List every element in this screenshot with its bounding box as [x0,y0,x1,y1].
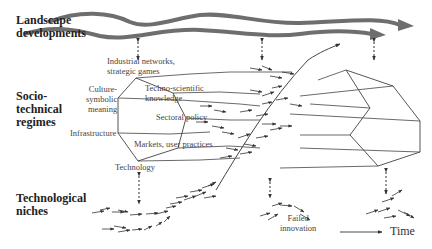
label-markets-user-practices: Markets, user practices [134,139,213,149]
label-industrial-networks: Industrial networks, strategic games [107,56,175,76]
regimes-line-3: regimes [16,116,62,129]
label-infrastructure: Infrastructure [70,128,116,138]
breakthrough-arrow [216,44,340,190]
label-technology: Technology [115,162,155,172]
level-label-landscape: Landscape developments [16,14,86,40]
industrial-line-2: strategic games [107,66,175,76]
techno-line-1: Techno-scientific [145,83,204,93]
label-failed-innovation: Failed innovation [280,213,316,233]
culture-line-2: symbolic [86,94,117,104]
label-time: Time [390,224,415,239]
niches-line-2: niches [16,205,86,218]
niche-arrows [92,182,414,232]
culture-line-3: meaning [86,104,117,114]
landscape-line-2: developments [16,27,86,40]
label-sectoral-policy: Sectoral policy [156,112,207,122]
techno-line-2: knowledge [145,93,204,103]
label-techno-scientific: Techno-scientific knowledge [145,83,204,103]
failed-line-2: innovation [280,223,316,233]
level-label-niches: Technological niches [16,192,86,218]
culture-line-1: Culture- [86,84,117,94]
industrial-line-1: Industrial networks, [107,56,175,66]
label-culture-symbolic: Culture- symbolic meaning [86,84,117,114]
failed-line-1: Failed [280,213,316,223]
level-label-regimes: Socio- technical regimes [16,90,62,129]
